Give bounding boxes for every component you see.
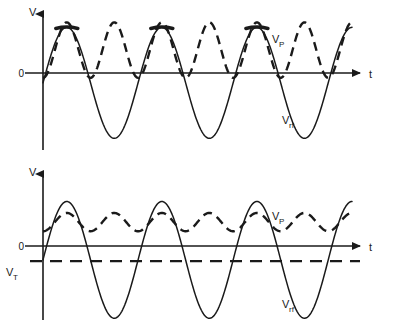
waveform-figure: V t 0 V P V rf [0, 0, 394, 330]
lower-y-axis-label: V [29, 166, 37, 178]
svg-text:P: P [279, 217, 284, 226]
lower-chart-svg: V t 0 V T V P V rf [0, 160, 394, 330]
upper-peak-caps [56, 27, 268, 28]
lower-origin-label: 0 [18, 241, 24, 252]
upper-vrf-annotation: V rf [282, 114, 295, 130]
upper-origin-label: 0 [18, 68, 24, 79]
upper-vp-curve [43, 22, 352, 78]
lower-threshold-label: V T [6, 266, 18, 282]
upper-y-axis-label: V [29, 6, 37, 18]
peak-cap [56, 27, 78, 28]
svg-text:rf: rf [289, 305, 295, 314]
lower-vp-annotation: V P [272, 210, 284, 226]
svg-text:T: T [13, 273, 18, 282]
upper-chart-panel: V t 0 V P V rf [0, 0, 394, 160]
lower-chart-panel: V t 0 V T V P V rf [0, 160, 394, 330]
lower-x-axis-label: t [369, 241, 372, 253]
upper-chart-svg: V t 0 V P V rf [0, 0, 394, 160]
svg-text:rf: rf [289, 121, 295, 130]
lower-vp-curve [43, 213, 352, 231]
lower-vrf-curve [43, 201, 352, 318]
peak-cap [151, 27, 173, 28]
svg-text:P: P [279, 40, 284, 49]
upper-vp-annotation: V P [272, 33, 284, 49]
upper-vrf-curve [43, 27, 352, 138]
peak-cap [246, 27, 268, 28]
upper-x-axis-label: t [369, 68, 372, 80]
